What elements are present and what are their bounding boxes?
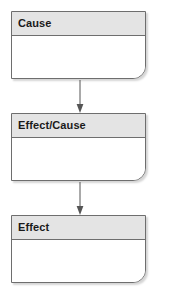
arrow-down-icon: [74, 80, 86, 114]
node-header: Cause: [12, 12, 145, 36]
connector-arrow-2: [74, 182, 86, 216]
node-title-label: Effect/Cause: [18, 120, 86, 131]
arrow-down-icon: [74, 182, 86, 216]
node-header: Effect: [12, 216, 145, 240]
flowchart-node-effect[interactable]: Effect: [11, 215, 146, 283]
node-body[interactable]: [12, 240, 145, 282]
flowchart-node-effect-cause[interactable]: Effect/Cause: [11, 113, 146, 181]
node-title-label: Effect: [18, 222, 49, 233]
node-title-label: Cause: [18, 18, 52, 29]
flowchart-canvas: Cause Effect/Cause Effect: [0, 0, 182, 288]
node-body[interactable]: [12, 36, 145, 78]
node-header: Effect/Cause: [12, 114, 145, 138]
flowchart-node-cause[interactable]: Cause: [11, 11, 146, 79]
connector-arrow-1: [74, 80, 86, 114]
node-body[interactable]: [12, 138, 145, 180]
